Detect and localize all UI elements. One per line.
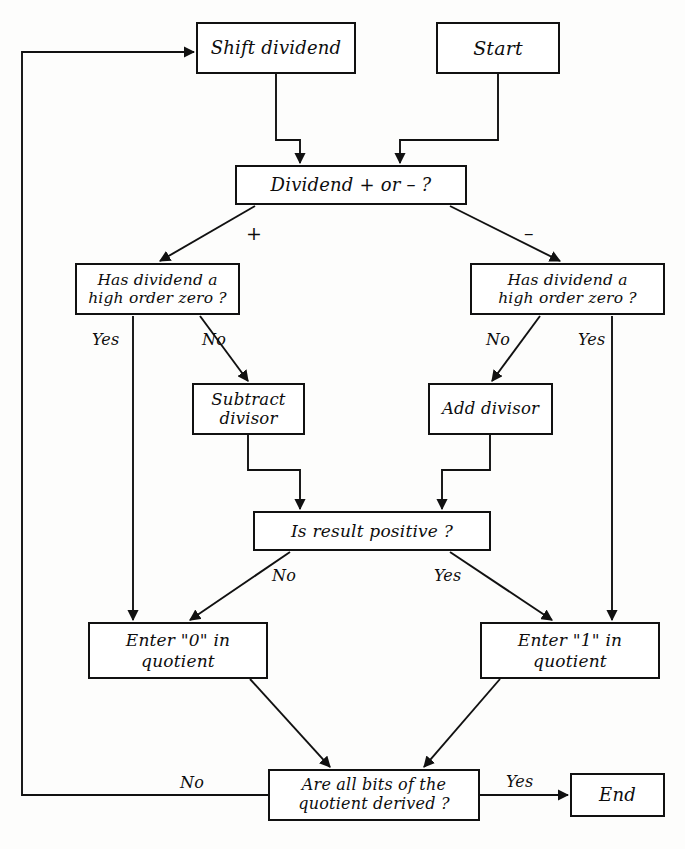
- node-add-divisor-label: Add divisor: [436, 399, 545, 418]
- edge-sign-minus: [450, 206, 560, 261]
- edge-label-left-zero-yes: Yes: [92, 330, 119, 349]
- node-all-bits-derived-label: Are all bits of the quotient derived ?: [292, 776, 456, 814]
- node-shift-dividend-label: Shift dividend: [205, 37, 348, 58]
- edge-label-right-zero-yes: Yes: [578, 330, 605, 349]
- edge-label-sign-plus: +: [246, 222, 262, 244]
- node-start[interactable]: Start: [436, 22, 560, 74]
- edge-add-to-isresult: [442, 435, 490, 509]
- edge-enter1-to-allbits: [424, 679, 500, 767]
- node-enter-zero-in-quotient[interactable]: Enter "0" in quotient: [88, 622, 268, 679]
- node-is-result-positive[interactable]: Is result positive ?: [253, 511, 491, 551]
- node-end[interactable]: End: [570, 773, 665, 817]
- node-subtract-divisor-label: Subtract divisor: [205, 390, 291, 429]
- edge-label-right-zero-no: No: [486, 330, 510, 349]
- node-shift-dividend[interactable]: Shift dividend: [196, 22, 356, 74]
- edge-enter0-to-allbits: [250, 679, 330, 767]
- edge-label-sign-minus: –: [524, 222, 534, 244]
- edge-sign-plus: [160, 206, 255, 261]
- edge-label-left-zero-no: No: [202, 330, 226, 349]
- node-add-divisor[interactable]: Add divisor: [428, 383, 553, 435]
- edge-label-allbits-no: No: [180, 773, 204, 792]
- edge-start-to-sign: [400, 74, 498, 163]
- node-enter-one-label: Enter "1" in quotient: [482, 630, 658, 670]
- node-has-dividend-zero-left-label: Has dividend a high order zero ?: [82, 271, 233, 308]
- edge-label-result-no: No: [272, 566, 296, 585]
- edge-label-allbits-yes: Yes: [506, 772, 533, 791]
- node-is-result-positive-label: Is result positive ?: [285, 521, 459, 541]
- edge-subtract-to-isresult: [248, 435, 300, 509]
- flowchart-canvas: Start Shift dividend Dividend + or – ? H…: [0, 0, 685, 849]
- flowchart-connectors: [0, 0, 685, 849]
- node-start-label: Start: [467, 37, 529, 59]
- node-end-label: End: [593, 784, 642, 805]
- node-subtract-divisor[interactable]: Subtract divisor: [192, 383, 305, 435]
- node-dividend-sign-label: Dividend + or – ?: [265, 174, 438, 195]
- node-has-dividend-zero-right[interactable]: Has dividend a high order zero ?: [470, 263, 665, 315]
- edge-result-yes-to-enter1: [450, 552, 552, 620]
- node-enter-zero-label: Enter "0" in quotient: [90, 630, 266, 670]
- edge-shift-to-sign: [276, 74, 300, 163]
- node-enter-one-in-quotient[interactable]: Enter "1" in quotient: [480, 622, 660, 679]
- node-all-bits-derived[interactable]: Are all bits of the quotient derived ?: [268, 769, 480, 821]
- edge-result-no-to-enter0: [190, 552, 290, 620]
- node-has-dividend-zero-left[interactable]: Has dividend a high order zero ?: [75, 263, 240, 315]
- edge-label-result-yes: Yes: [434, 566, 461, 585]
- node-dividend-sign[interactable]: Dividend + or – ?: [235, 165, 467, 205]
- node-has-dividend-zero-right-label: Has dividend a high order zero ?: [492, 271, 643, 308]
